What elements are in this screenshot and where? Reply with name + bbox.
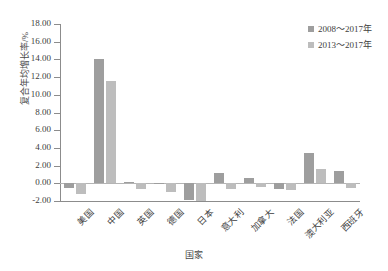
bar [304, 153, 314, 183]
y-axis-tick: 6.00 [54, 130, 60, 131]
y-axis-tick-label: -2.00 [32, 195, 51, 205]
bar [166, 183, 176, 192]
y-axis-tick: 16.00 [54, 42, 60, 43]
y-axis-title: 复合年均增长率/% [18, 0, 31, 139]
y-axis-tick: 2.00 [54, 166, 60, 167]
legend-swatch-icon [308, 42, 314, 48]
bar [334, 171, 344, 183]
bar [184, 183, 194, 200]
x-axis-category-label: 日本 [194, 206, 216, 228]
bar [316, 169, 326, 183]
x-axis-category-label: 加拿大 [248, 206, 276, 234]
legend-swatch-icon [308, 26, 314, 32]
x-axis-category-label: 德国 [164, 206, 186, 228]
bar [64, 183, 74, 187]
legend-item: 2008～2017年 [308, 22, 372, 35]
x-axis-category-label: 英国 [134, 206, 156, 228]
legend-label: 2013～2017年 [318, 38, 372, 51]
bar [154, 183, 164, 184]
bar [286, 183, 296, 190]
y-axis-tick-label: 6.00 [35, 124, 51, 134]
y-axis-tick-label: 2.00 [35, 160, 51, 170]
x-axis-category-label: 澳大利亚 [302, 206, 337, 241]
x-axis-category-label: 中国 [104, 206, 126, 228]
bar [136, 183, 146, 189]
y-axis-tick: -2.00 [54, 201, 60, 202]
bar [226, 183, 236, 188]
y-axis-tick-label: 12.00 [31, 71, 51, 81]
zero-baseline [60, 183, 360, 184]
bar [214, 173, 224, 183]
y-axis-tick-label: 8.00 [35, 107, 51, 117]
y-axis-tick: 18.00 [54, 24, 60, 25]
y-axis-tick-label: 14.00 [31, 53, 51, 63]
x-axis-category-label: 法国 [284, 206, 306, 228]
bar [256, 183, 266, 187]
y-axis-tick: 12.00 [54, 77, 60, 78]
bar [124, 182, 134, 183]
y-axis-tick: 10.00 [54, 95, 60, 96]
y-axis-line [60, 24, 61, 201]
y-axis-tick-label: 16.00 [31, 36, 51, 46]
y-axis-tick-label: 0.00 [35, 177, 51, 187]
bar [274, 183, 284, 188]
y-axis-tick: 4.00 [54, 148, 60, 149]
bar-chart: 复合年均增长率/% 18.0016.0014.0012.0010.008.006… [0, 0, 388, 271]
legend-item: 2013～2017年 [308, 38, 372, 51]
bar [94, 59, 104, 184]
y-axis-tick-label: 4.00 [35, 142, 51, 152]
y-axis-tick-label: 18.00 [31, 18, 51, 28]
legend-label: 2008～2017年 [318, 22, 372, 35]
bar [196, 183, 206, 200]
bar [244, 178, 254, 183]
chart-legend: 2008～2017年 2013～2017年 [308, 22, 372, 54]
y-axis-tick-label: 10.00 [31, 89, 51, 99]
bar [76, 183, 86, 194]
y-axis-tick: 14.00 [54, 59, 60, 60]
bar [106, 81, 116, 184]
y-axis-tick: 0.00 [54, 183, 60, 184]
x-axis-bottom-line [60, 201, 360, 202]
bar [346, 183, 356, 187]
x-axis-category-label: 西班牙 [338, 206, 366, 234]
x-axis-category-label: 意大利 [218, 206, 246, 234]
y-axis-tick: 8.00 [54, 113, 60, 114]
x-axis-category-label: 美国 [74, 206, 96, 228]
x-axis-title: 国家 [0, 248, 388, 261]
